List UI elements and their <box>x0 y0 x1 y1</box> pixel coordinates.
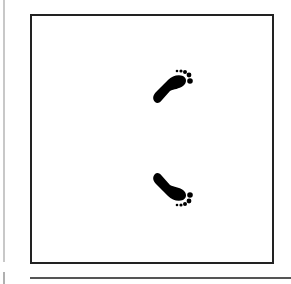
left-margin-rule <box>3 0 5 262</box>
footprint-icon-upper <box>150 64 200 109</box>
footprint-upper-svg <box>150 64 200 109</box>
illustration-frame <box>30 14 274 264</box>
bottom-rule <box>30 277 291 279</box>
footprint-lower-svg <box>150 166 200 211</box>
footprint-icon-lower <box>150 166 200 211</box>
left-margin-rule-lower <box>3 272 5 284</box>
